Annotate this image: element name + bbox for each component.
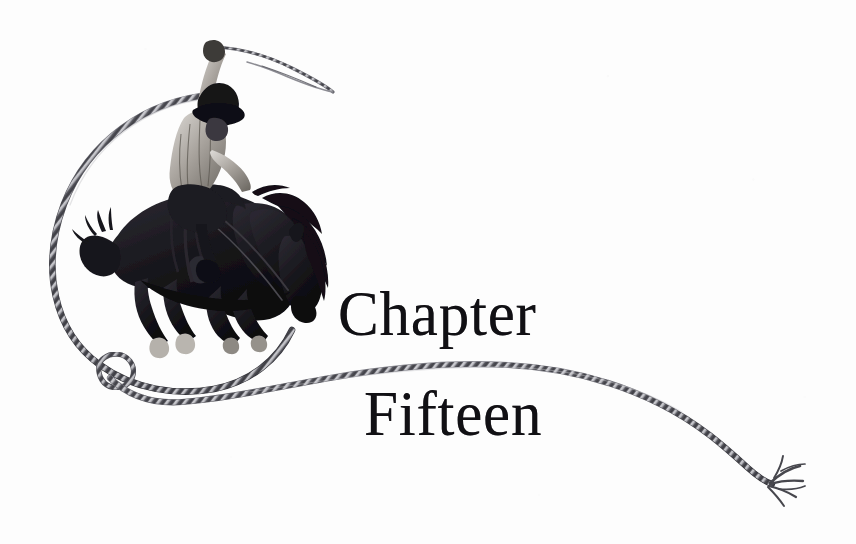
chapter-title-line1: Chapter bbox=[338, 283, 537, 346]
chapter-opening-page: Chapter Fifteen bbox=[0, 0, 856, 544]
frayed-rope-end bbox=[768, 456, 805, 506]
cowboy-bronco-illustration bbox=[0, 0, 856, 544]
chapter-title-line2: Fifteen bbox=[364, 383, 542, 446]
rope-flying-end bbox=[213, 47, 333, 92]
